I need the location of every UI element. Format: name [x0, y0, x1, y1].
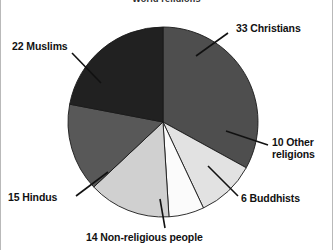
pie-label-other-religions: 10 Other religions: [272, 136, 330, 160]
pie-label-muslims: 22 Muslims: [12, 40, 68, 52]
pie-label-hindus: 15 Hindus: [8, 191, 57, 203]
pie-label-non-religious-people: 14 Non-religious people: [86, 231, 203, 243]
pie-chart-graphic: [0, 0, 333, 250]
pie-label-buddhists: 6 Buddhists: [241, 192, 300, 204]
pie-chart-figure: World religions 33 Christians 22 Muslims…: [0, 0, 333, 250]
pie-label-christians: 33 Christians: [236, 22, 301, 34]
